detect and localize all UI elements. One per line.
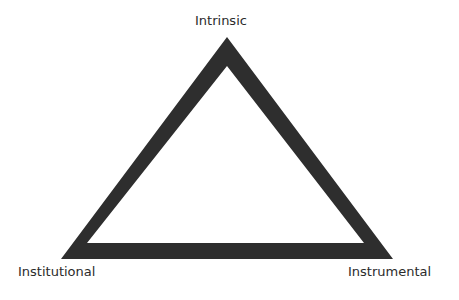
triangle-shape	[61, 37, 393, 259]
vertex-label-institutional: Institutional	[18, 264, 95, 279]
vertex-label-intrinsic: Intrinsic	[195, 13, 247, 28]
vertex-label-instrumental: Instrumental	[348, 264, 431, 279]
triangle-diagram	[0, 0, 459, 300]
